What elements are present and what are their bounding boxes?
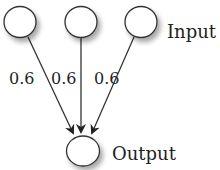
- input-label: Input: [167, 21, 217, 42]
- weight-label-1: 0.6: [9, 69, 34, 88]
- output-label: Output: [112, 143, 177, 164]
- input-node-3: [125, 7, 157, 38]
- weight-label-3: 0.6: [94, 69, 119, 88]
- input-node-1: [4, 7, 36, 38]
- network-diagram: Input Output 0.6 0.6 0.6: [0, 0, 220, 170]
- input-node-2: [65, 7, 97, 38]
- weight-label-2: 0.6: [51, 69, 76, 88]
- output-node: [67, 136, 100, 166]
